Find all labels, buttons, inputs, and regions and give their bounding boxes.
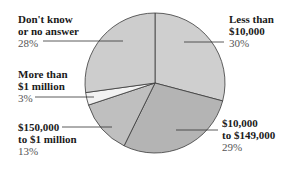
label-name-line2: or no answer <box>18 25 79 37</box>
label-percent: 30% <box>229 37 274 49</box>
pie-slices <box>85 13 225 153</box>
label-name-line2: to $1 million <box>18 133 77 145</box>
label-name-line2: $1 million <box>18 80 68 92</box>
label-percent: 29% <box>222 141 275 153</box>
label-over-1m: More than $1 million 3% <box>18 68 68 104</box>
label-name-line2: $10,000 <box>229 25 274 37</box>
label-name-line1: More than <box>18 68 68 80</box>
label-under-10k: Less than $10,000 30% <box>229 13 274 49</box>
label-name-line1: Don't know <box>18 13 79 25</box>
label-dont-know: Don't know or no answer 28% <box>18 13 79 49</box>
label-name-line1: $150,000 <box>18 121 77 133</box>
label-percent: 13% <box>18 145 77 157</box>
label-percent: 3% <box>18 92 68 104</box>
label-150k-1m: $150,000 to $1 million 13% <box>18 121 77 157</box>
label-name-line1: $10,000 <box>222 117 275 129</box>
label-10k-149k: $10,000 to $149,000 29% <box>222 117 275 153</box>
label-name-line1: Less than <box>229 13 274 25</box>
label-name-line2: to $149,000 <box>222 129 275 141</box>
label-percent: 28% <box>18 37 79 49</box>
pie-slice <box>85 13 155 93</box>
